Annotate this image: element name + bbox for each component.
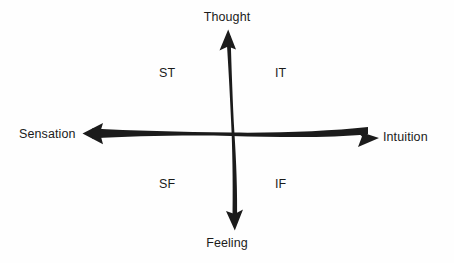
axis-label-thought: Thought: [204, 11, 251, 24]
axis-label-feeling: Feeling: [206, 237, 248, 250]
axis-label-sensation: Sensation: [19, 128, 76, 141]
horizontal-axis-stroke: [92, 127, 368, 138]
quadrant-label-sf: SF: [159, 178, 175, 191]
quadrant-label-st: ST: [159, 67, 175, 80]
sensation-arrowhead-icon: [83, 123, 104, 144]
quadrant-label-it: IT: [275, 67, 286, 80]
vertical-axis-stroke: [226, 36, 237, 224]
quadrant-label-if: IF: [275, 178, 286, 191]
axis-label-intuition: Intuition: [383, 131, 428, 144]
diagram-canvas: Thought Feeling Sensation Intuition ST I…: [0, 0, 454, 263]
